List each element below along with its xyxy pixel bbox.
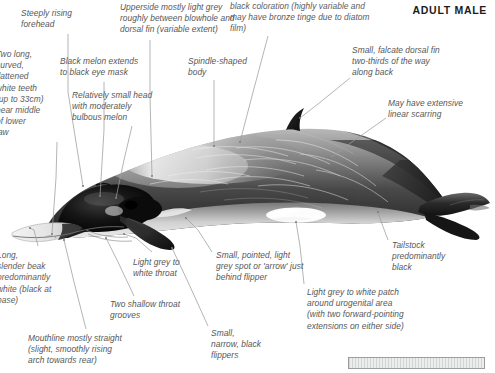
illustration-plate: ADULT MALE Steeply rising foreheadUppers…: [0, 0, 495, 373]
callout-black-coloration-bronze-tinge: black coloration (highly variable and ma…: [230, 1, 370, 35]
callout-mouthline-mostly-straight: Mouthline mostly straight (slight, smoot…: [28, 333, 122, 367]
callout-two-shallow-throat-grooves: Two shallow throat grooves: [110, 299, 180, 321]
callout-may-have-extensive-linear-scarring: May have extensive linear scarring: [388, 98, 463, 120]
callout-two-long-curved-teeth: Two long, curved, flattened white teeth …: [0, 49, 44, 139]
black-eye-mask: [118, 197, 162, 221]
callout-small-falcate-dorsal-fin: Small, falcate dorsal fin two-thirds of …: [352, 45, 440, 79]
urogenital-patch: [266, 208, 326, 223]
callout-upperside-light-grey: Upperside mostly light grey roughly betw…: [120, 2, 235, 36]
callout-black-melon-extends-eye-mask: Black melon extends to black eye mask: [60, 56, 138, 78]
page-title: ADULT MALE: [413, 4, 487, 16]
callout-steeply-rising-forehead: Steeply rising forehead: [21, 8, 72, 30]
callout-light-grey-to-white-urogenital-patch: Light grey to white patch around urogeni…: [307, 287, 404, 332]
eye: [125, 201, 138, 210]
callout-relatively-small-head: Relatively small head with moderately bu…: [72, 90, 152, 124]
callout-light-grey-to-white-throat: Light grey to white throat: [133, 257, 180, 279]
callout-long-slender-beak: Long, slender beak predominantly white (…: [0, 250, 51, 306]
callout-spindle-shaped-body: Spindle-shaped body: [188, 56, 247, 78]
scale-bar-ticks: [349, 358, 484, 368]
dorsal-fin: [286, 108, 304, 131]
callout-small-pointed-light-grey-spot: Small, pointed, light grey spot or 'arro…: [216, 250, 303, 284]
callout-small-narrow-black-flippers: Small, narrow, black flippers: [211, 328, 261, 362]
callout-tailstock-predominantly-black: Tailstock predominantly black: [392, 240, 445, 274]
scale-bar: [348, 357, 485, 369]
